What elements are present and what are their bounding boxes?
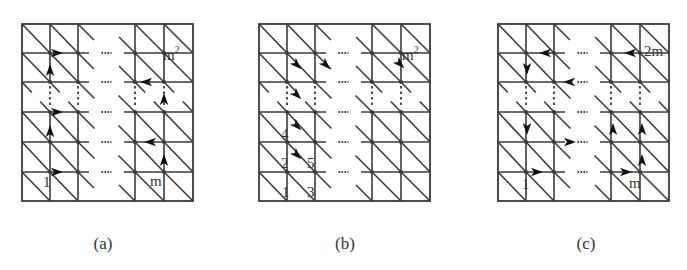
panel-a: 1mm2	[22, 24, 193, 201]
arrow-down-icon	[523, 63, 531, 75]
node-label: m2	[163, 44, 180, 63]
node-label: 5	[307, 155, 315, 171]
node-label: m2	[402, 44, 419, 63]
arrow-up-icon	[609, 123, 617, 135]
node-label: 2m	[644, 43, 664, 59]
caption-a: (a)	[94, 234, 113, 254]
panel-b: 42513m2	[259, 24, 430, 201]
node-labels: 1m2m	[522, 43, 664, 192]
arrow-down-right-icon	[290, 119, 304, 133]
node-label: m	[629, 175, 641, 191]
node-label: 4	[281, 126, 289, 142]
arrow-down-right-icon	[290, 148, 304, 162]
caption-b: (b)	[335, 234, 355, 254]
arrow-down-icon	[523, 123, 531, 135]
grid-traversal-figure: 1mm242513m21m2m	[0, 0, 687, 270]
arrows	[290, 57, 407, 162]
node-label: 1	[522, 176, 530, 192]
caption-c: (c)	[577, 234, 596, 254]
arrow-left-icon	[563, 78, 575, 86]
node-label: 3	[307, 184, 315, 200]
arrow-right-icon	[564, 138, 576, 146]
horizontal-grid-lines	[498, 53, 669, 172]
node-label: 1	[43, 174, 51, 190]
node-label: 2	[281, 155, 289, 171]
panel-c: 1m2m	[498, 24, 669, 201]
arrow-up-icon	[638, 123, 646, 135]
arrow-up-icon	[638, 154, 646, 166]
arrow-down-right-icon	[290, 88, 304, 102]
arrow-down-right-icon	[290, 58, 304, 72]
node-label: 1	[282, 184, 290, 200]
node-label: m	[150, 173, 162, 189]
